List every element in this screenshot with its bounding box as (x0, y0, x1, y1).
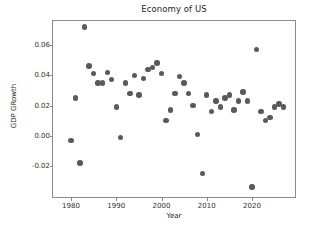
data-point (240, 89, 245, 94)
y-tick-label: 0.00 (34, 132, 50, 140)
x-tick-label: 2000 (153, 202, 171, 210)
data-point (213, 98, 218, 103)
data-point (127, 91, 132, 96)
data-point (123, 80, 128, 85)
matplotlib-figure: Economy of US 0.060.040.020.00-0.02 1980… (0, 0, 315, 231)
data-point (195, 132, 200, 137)
data-point (181, 80, 186, 85)
data-point (150, 65, 155, 70)
data-point (227, 92, 232, 97)
data-point (82, 24, 87, 29)
data-point (231, 107, 236, 112)
data-point (141, 76, 146, 81)
y-tick-label: -0.02 (32, 162, 50, 170)
chart-title: Economy of US (52, 4, 296, 14)
data-point (168, 107, 173, 112)
y-axis-label: GDP GRowth (10, 56, 18, 156)
x-tick-label: 2020 (243, 202, 261, 210)
x-axis-label: Year (52, 212, 296, 220)
data-point (159, 71, 164, 76)
data-point (200, 171, 205, 176)
data-point (105, 70, 110, 75)
data-point (86, 63, 91, 68)
data-point (186, 91, 191, 96)
data-point (254, 47, 259, 52)
data-point (172, 91, 177, 96)
data-point (249, 184, 254, 189)
x-tick-mark (162, 197, 163, 201)
y-tick-mark (50, 166, 54, 167)
data-point (132, 73, 137, 78)
data-point (100, 80, 105, 85)
scatter-plot-area (53, 21, 295, 197)
data-point (281, 104, 286, 109)
data-point (204, 92, 209, 97)
x-tick-label: 1980 (62, 202, 80, 210)
data-point (267, 115, 272, 120)
data-point (91, 71, 96, 76)
x-tick-label: 2010 (198, 202, 216, 210)
data-point (218, 104, 223, 109)
data-point (236, 98, 241, 103)
data-point (163, 118, 168, 123)
data-point (109, 77, 114, 82)
y-tick-mark (50, 106, 54, 107)
data-point (190, 103, 195, 108)
data-point (154, 60, 159, 65)
data-point (136, 92, 141, 97)
data-point (77, 160, 82, 165)
x-tick-label: 1990 (107, 202, 125, 210)
data-point (118, 135, 123, 140)
x-tick-mark (116, 197, 117, 201)
y-tick-label: 0.04 (34, 71, 50, 79)
data-point (68, 138, 73, 143)
x-tick-mark (207, 197, 208, 201)
data-point (177, 74, 182, 79)
data-point (258, 109, 263, 114)
x-tick-mark (71, 197, 72, 201)
y-tick-label: 0.06 (34, 41, 50, 49)
x-tick-mark (252, 197, 253, 201)
y-tick-mark (50, 136, 54, 137)
y-tick-label: 0.02 (34, 102, 50, 110)
data-point (114, 104, 119, 109)
plot-frame: 0.060.040.020.00-0.02 198019902000201020… (52, 20, 296, 198)
data-point (73, 95, 78, 100)
data-point (209, 109, 214, 114)
data-point (245, 98, 250, 103)
